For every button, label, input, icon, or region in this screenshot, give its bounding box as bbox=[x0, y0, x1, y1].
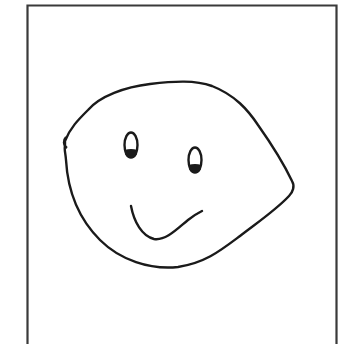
mouth bbox=[131, 206, 202, 239]
face-outline bbox=[65, 82, 294, 268]
right-eye bbox=[189, 148, 202, 174]
right-pupil bbox=[189, 164, 202, 173]
drawing-canvas bbox=[0, 0, 342, 344]
left-eye bbox=[125, 133, 138, 159]
left-pupil bbox=[125, 149, 138, 158]
